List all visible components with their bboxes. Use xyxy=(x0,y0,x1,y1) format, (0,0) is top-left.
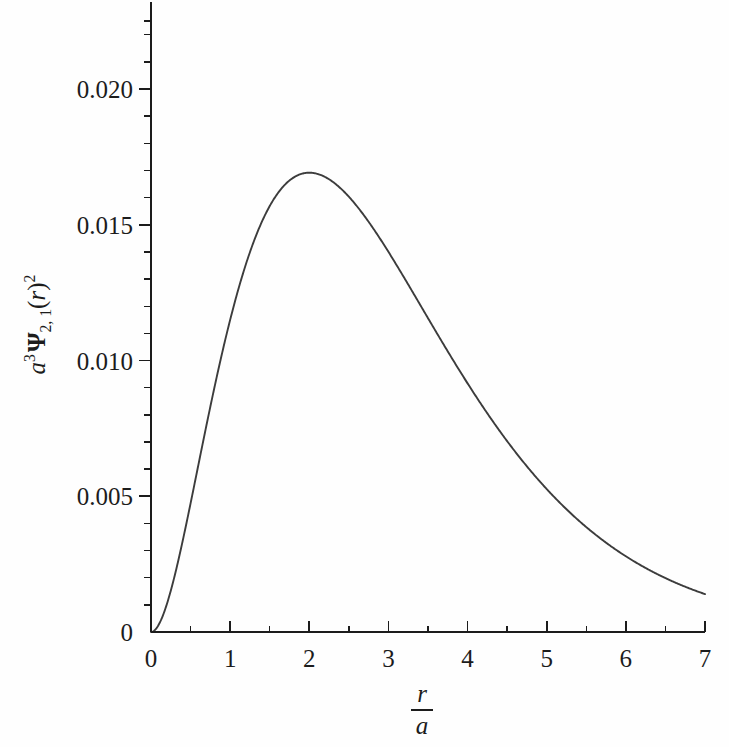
y-axis-title: a3 Ψ2, 1(r)2 xyxy=(8,190,68,460)
y-tick-label: 0.010 xyxy=(77,348,133,373)
data-curve xyxy=(151,173,705,632)
figure-canvas: 00.0050.0100.0150.020 01234567 a3 Ψ2, 1(… xyxy=(0,0,729,747)
x-tick-label: 6 xyxy=(620,646,633,671)
y-title-paren-close: ) xyxy=(23,283,50,291)
x-tick-label: 5 xyxy=(540,646,553,671)
y-title-squared: 2 xyxy=(21,275,38,283)
y-tick-label: 0.015 xyxy=(77,212,133,237)
x-axis-title-fraction: r a xyxy=(411,681,434,740)
fraction-bar-icon xyxy=(411,709,434,711)
x-tick-label: 3 xyxy=(382,646,395,671)
x-tick-label: 0 xyxy=(145,646,158,671)
x-tick-label: 2 xyxy=(303,646,316,671)
x-title-numerator: r xyxy=(411,681,434,708)
y-title-psi: Ψ xyxy=(23,333,50,353)
y-title-psi-subscript: 2, 1 xyxy=(37,309,54,333)
x-title-denominator: a xyxy=(411,712,434,739)
x-tick-label: 1 xyxy=(224,646,237,671)
y-tick-label: 0 xyxy=(121,620,134,645)
x-tick-label: 7 xyxy=(699,646,712,671)
y-tick-label: 0.020 xyxy=(77,77,133,102)
x-tick-label: 4 xyxy=(461,646,474,671)
y-axis-title-text: a3 Ψ2, 1(r)2 xyxy=(22,275,53,375)
y-tick-label: 0.005 xyxy=(77,484,133,509)
y-title-a: a xyxy=(23,362,50,375)
y-title-a-exponent: 3 xyxy=(21,355,38,363)
axis-ticks xyxy=(139,21,705,632)
x-axis-title: r a xyxy=(387,681,457,740)
y-title-variable: r xyxy=(23,291,50,301)
y-title-paren-open: ( xyxy=(23,301,50,309)
